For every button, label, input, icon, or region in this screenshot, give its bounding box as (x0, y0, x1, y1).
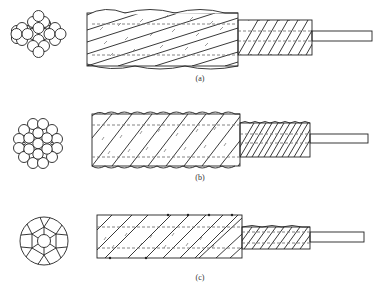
caption-b: (b) (180, 173, 220, 182)
side-view-b (82, 112, 368, 168)
wire-rope-diagram (0, 0, 379, 294)
side-view-a (87, 9, 372, 69)
caption-a: (a) (180, 74, 220, 83)
wire-rope-figure: (a) (b) (c) (0, 0, 379, 294)
cross-section-a-wires (11, 11, 66, 58)
caption-c: (c) (180, 273, 220, 282)
side-view-c (97, 214, 364, 259)
core-wire-b (310, 134, 368, 143)
cross-section-b (14, 119, 63, 169)
core-wire-c (310, 232, 364, 242)
core-wire-a (312, 31, 372, 41)
cross-section-c (20, 217, 68, 265)
